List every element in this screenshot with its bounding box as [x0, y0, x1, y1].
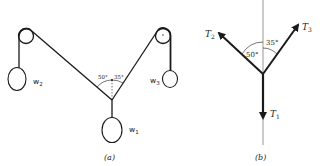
weight-w1	[102, 118, 122, 143]
caption-a: (a)	[104, 153, 115, 162]
label-T2: T2	[205, 29, 215, 40]
angle-label-a-right: 35°	[114, 74, 124, 80]
angle-label-b-right: 35°	[266, 39, 278, 47]
angle-arc-35	[263, 48, 277, 54]
label-w2: w2	[33, 77, 43, 87]
caption-b: (b)	[255, 153, 266, 162]
label-T3: T3	[302, 22, 312, 33]
angle-label-a-left: 50°	[98, 74, 108, 80]
weight-w3	[163, 71, 178, 88]
weight-w2	[8, 68, 26, 91]
angle-arc-a	[97, 80, 123, 87]
figure-a: w2 w3 w1 50° 35° (a)	[8, 28, 178, 162]
angle-label-b-left: 50°	[246, 51, 258, 59]
force-T3-arrow	[263, 25, 298, 74]
figure-b: T2 T3 T1 50° 35° (b)	[205, 0, 312, 162]
label-w3: w3	[150, 76, 160, 86]
rope-right-diagonal	[112, 30, 158, 100]
label-T1: T1	[270, 109, 280, 120]
label-w1: w1	[129, 125, 139, 135]
rope-left-diagonal	[30, 30, 112, 101]
